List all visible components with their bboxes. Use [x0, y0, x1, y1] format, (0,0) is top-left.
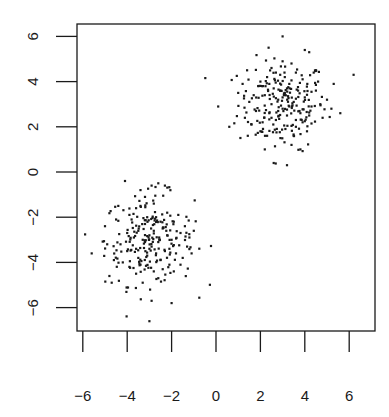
data-point	[139, 247, 141, 249]
data-point	[276, 101, 278, 103]
data-point	[233, 122, 235, 124]
data-point	[264, 112, 266, 114]
data-point	[279, 131, 281, 133]
data-point	[274, 145, 276, 147]
data-point	[147, 188, 149, 190]
data-point	[138, 225, 140, 227]
x-tick-label: 2	[256, 387, 264, 404]
data-point	[163, 249, 165, 251]
data-point	[154, 248, 156, 250]
data-point	[295, 72, 297, 74]
data-point	[299, 148, 301, 150]
data-point	[169, 215, 171, 217]
data-point	[304, 99, 306, 101]
y-axis: −6−4−20246	[24, 32, 77, 316]
data-point	[153, 232, 155, 234]
data-point	[129, 238, 131, 240]
x-axis: −6−4−20246	[74, 331, 353, 404]
data-point	[301, 74, 303, 76]
data-point	[104, 225, 106, 227]
data-point	[272, 72, 274, 74]
data-point	[236, 115, 238, 117]
data-point	[243, 97, 245, 99]
y-tick-label: 4	[24, 77, 41, 85]
data-point	[157, 277, 159, 279]
data-point	[174, 259, 176, 261]
data-point	[162, 268, 164, 270]
data-point	[246, 69, 248, 71]
data-point	[245, 90, 247, 92]
data-point	[118, 280, 120, 282]
data-point	[302, 121, 304, 123]
data-point	[110, 210, 112, 212]
data-point	[135, 207, 137, 209]
data-point	[115, 249, 117, 251]
data-point	[295, 119, 297, 121]
data-point	[295, 98, 297, 100]
data-point	[306, 86, 308, 88]
x-tick-label: 0	[212, 387, 220, 404]
data-point	[273, 57, 275, 59]
data-point	[125, 291, 127, 293]
data-point	[314, 105, 316, 107]
data-point	[155, 261, 157, 263]
y-tick-label: 0	[24, 168, 41, 176]
data-point	[168, 264, 170, 266]
data-point	[282, 80, 284, 82]
data-point	[132, 244, 134, 246]
data-point	[297, 96, 299, 98]
data-point	[133, 231, 135, 233]
data-point	[268, 118, 270, 120]
x-tick-label: −6	[74, 387, 91, 404]
data-point	[231, 79, 233, 81]
data-point	[184, 239, 186, 241]
data-point	[253, 94, 255, 96]
data-point	[248, 101, 250, 103]
data-point	[269, 69, 271, 71]
data-point	[243, 95, 245, 97]
data-point	[298, 128, 300, 130]
data-point	[247, 79, 249, 81]
data-point	[136, 232, 138, 234]
data-point	[187, 268, 189, 270]
data-point	[299, 82, 301, 84]
data-point	[259, 122, 261, 124]
data-point	[259, 85, 261, 87]
data-point	[146, 252, 148, 254]
data-point	[155, 254, 157, 256]
data-point	[265, 80, 267, 82]
data-point	[135, 248, 137, 250]
data-point	[255, 69, 257, 71]
data-point	[154, 186, 156, 188]
data-point	[277, 115, 279, 117]
data-point	[270, 103, 272, 105]
y-tick-label: 6	[24, 32, 41, 40]
data-point	[210, 245, 212, 247]
data-point	[255, 96, 257, 98]
data-point	[305, 116, 307, 118]
data-point	[143, 243, 145, 245]
data-point	[282, 35, 284, 37]
data-point	[147, 267, 149, 269]
data-point	[283, 72, 285, 74]
data-point	[144, 206, 146, 208]
data-point	[275, 111, 277, 113]
data-point	[157, 241, 159, 243]
data-point	[323, 108, 325, 110]
data-point	[182, 257, 184, 259]
data-point	[104, 281, 106, 283]
data-point	[185, 275, 187, 277]
data-point	[310, 91, 312, 93]
data-point	[148, 239, 150, 241]
data-point	[322, 117, 324, 119]
data-point	[299, 112, 301, 114]
data-point	[148, 320, 150, 322]
data-point	[237, 92, 239, 94]
data-point	[281, 100, 283, 102]
data-point	[270, 117, 272, 119]
data-point	[154, 195, 156, 197]
data-point	[130, 249, 132, 251]
data-point	[151, 300, 153, 302]
data-point	[116, 258, 118, 260]
data-point	[217, 105, 219, 107]
